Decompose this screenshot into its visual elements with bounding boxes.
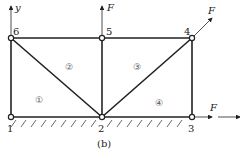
member-2-4: [102, 38, 192, 117]
node-label-4: 4: [184, 26, 190, 37]
node-3: [189, 114, 194, 119]
element-label-2: ②: [65, 62, 73, 72]
node-label-6: 6: [13, 26, 19, 37]
node-label-3: 3: [188, 123, 194, 134]
y-axis-label: y: [14, 2, 21, 13]
node-label-5: 5: [106, 26, 112, 37]
force-label-node-4: F: [207, 5, 216, 16]
node-2: [99, 114, 104, 119]
node-1: [8, 114, 13, 119]
node-label-2: 2: [98, 123, 104, 134]
force-label-node-5: F: [106, 2, 115, 13]
truss-diagram: y F F F 1 2 3 4 5 6 ① ② ③ ④ (b): [0, 0, 240, 150]
node-label-1: 1: [7, 123, 13, 134]
figure-caption: (b): [97, 138, 111, 149]
element-label-1: ①: [35, 95, 43, 105]
force-arrow-node-4: [192, 18, 212, 38]
element-label-3: ③: [133, 62, 141, 72]
ground-hatching: [11, 120, 182, 127]
element-label-4: ④: [155, 98, 163, 108]
force-label-node-3: F: [209, 102, 218, 113]
truss-members: [11, 38, 192, 117]
node-5: [99, 35, 104, 40]
member-6-2: [11, 38, 102, 117]
